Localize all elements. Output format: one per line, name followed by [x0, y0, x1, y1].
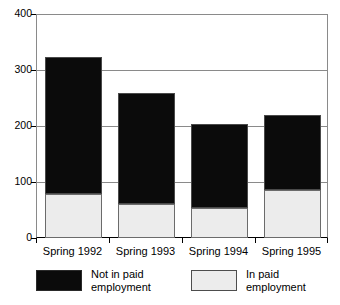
y-tick-label-100: 100	[14, 176, 32, 187]
legend-swatch-dark-icon	[36, 270, 82, 291]
bar-segment-in-paid-employment[interactable]	[264, 190, 321, 238]
bars-layer	[36, 14, 328, 238]
bar-segment-not-in-paid-employment[interactable]	[264, 115, 321, 190]
y-tick-label-200: 200	[14, 120, 32, 131]
x-label-spring-1992: Spring 1992	[36, 244, 109, 258]
x-tick-mark-4	[327, 238, 328, 243]
x-tick-mark-3	[255, 238, 256, 243]
x-tick-mark-2	[182, 238, 183, 243]
legend-label-in-paid-employment: In paid employment	[246, 268, 336, 293]
x-tick-mark-1	[109, 238, 110, 243]
y-tick-label-400: 400	[14, 8, 32, 19]
bar-segment-in-paid-employment[interactable]	[45, 194, 102, 238]
bar-segment-not-in-paid-employment[interactable]	[191, 124, 248, 208]
bar-group-spring-1994[interactable]	[191, 124, 248, 238]
legend-item-in-paid-employment[interactable]: In paid employment	[191, 268, 336, 293]
bar-segment-in-paid-employment[interactable]	[191, 208, 248, 238]
x-label-spring-1993: Spring 1993	[109, 244, 182, 258]
stacked-bar-chart: 400 300 200 100 0	[0, 0, 340, 305]
bar-group-spring-1993[interactable]	[118, 93, 175, 238]
x-label-spring-1995: Spring 1995	[255, 244, 328, 258]
y-axis: 400 300 200 100 0	[0, 0, 32, 305]
x-label-spring-1994: Spring 1994	[182, 244, 255, 258]
y-tick-label-300: 300	[14, 64, 32, 75]
bar-segment-in-paid-employment[interactable]	[118, 204, 175, 238]
legend-item-not-in-paid-employment[interactable]: Not in paid employment	[36, 268, 151, 293]
bar-group-spring-1995[interactable]	[264, 115, 321, 238]
x-axis-labels: Spring 1992 Spring 1993 Spring 1994 Spri…	[36, 244, 328, 260]
legend-swatch-light-icon	[191, 270, 237, 291]
bar-group-spring-1992[interactable]	[45, 57, 102, 238]
legend-label-not-in-paid-employment: Not in paid employment	[91, 268, 151, 293]
chart-legend: Not in paid employment In paid employmen…	[36, 268, 336, 302]
x-tick-mark-0	[36, 238, 37, 243]
bar-segment-not-in-paid-employment[interactable]	[118, 93, 175, 204]
bar-segment-not-in-paid-employment[interactable]	[45, 57, 102, 194]
